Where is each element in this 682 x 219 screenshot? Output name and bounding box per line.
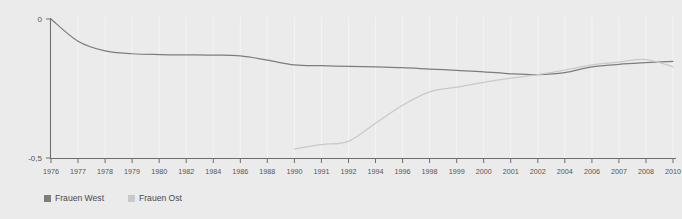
x-tick-label: 2001 [503, 167, 519, 176]
gridlines [51, 17, 673, 158]
x-tick-label: 1996 [395, 167, 411, 176]
x-tick-label: 1994 [368, 167, 384, 176]
chart-figure: 1976197719781979198019821984198619881990… [0, 0, 682, 219]
x-tick-label: 1992 [341, 167, 357, 176]
x-tick-label: 1979 [124, 167, 140, 176]
x-tick-label: 2010 [665, 167, 681, 176]
y-tick-label: -0,5 [28, 154, 42, 163]
legend-swatch [44, 195, 51, 202]
x-tick-label: 1978 [97, 167, 113, 176]
x-tick-label: 1984 [205, 167, 221, 176]
x-tick-label: 2008 [638, 167, 654, 176]
axes [51, 18, 677, 159]
x-tick-label: 1998 [422, 167, 438, 176]
x-axis-ticks [51, 159, 673, 164]
x-tick-label: 2007 [611, 167, 627, 176]
x-tick-label: 1976 [43, 167, 59, 176]
x-tick-label: 1982 [178, 167, 194, 176]
series-line-frauen-west [51, 19, 673, 75]
x-tick-label: 1988 [259, 167, 275, 176]
y-tick-label: 0 [38, 15, 43, 24]
x-tick-label: 2002 [530, 167, 546, 176]
chart-legend: Frauen WestFrauen Ost [44, 193, 183, 203]
x-tick-label: 1986 [232, 167, 248, 176]
x-tick-label: 2006 [584, 167, 600, 176]
data-series-group [51, 19, 673, 149]
x-tick-label: 1991 [313, 167, 329, 176]
legend-swatch [128, 195, 135, 202]
x-tick-label: 1977 [70, 167, 86, 176]
x-tick-label: 1980 [151, 167, 167, 176]
legend-label: Frauen West [55, 193, 105, 203]
x-axis-tick-labels: 1976197719781979198019821984198619881990… [43, 167, 681, 176]
line-chart: 1976197719781979198019821984198619881990… [0, 0, 682, 219]
x-tick-label: 1990 [286, 167, 302, 176]
legend-label: Frauen Ost [139, 193, 183, 203]
y-axis-ticks [46, 19, 51, 158]
x-tick-label: 2000 [476, 167, 492, 176]
x-tick-label: 1999 [449, 167, 465, 176]
y-axis-tick-labels: 0-0,5 [28, 15, 42, 163]
x-tick-label: 2004 [557, 167, 573, 176]
